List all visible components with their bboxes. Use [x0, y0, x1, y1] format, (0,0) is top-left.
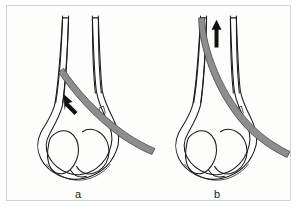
- figure-label-b: b: [214, 189, 220, 200]
- anatomy-figure-illustration: .bone { fill: none; stroke: #1b1b1b; str…: [7, 6, 290, 200]
- figure-label-a: a: [75, 189, 81, 200]
- image-viewer: .bone { fill: none; stroke: #1b1b1b; str…: [0, 0, 298, 221]
- bottom-toolbar-strip: · ·· ··· ·· ···: [0, 205, 298, 221]
- figure-panel: .bone { fill: none; stroke: #1b1b1b; str…: [6, 5, 291, 201]
